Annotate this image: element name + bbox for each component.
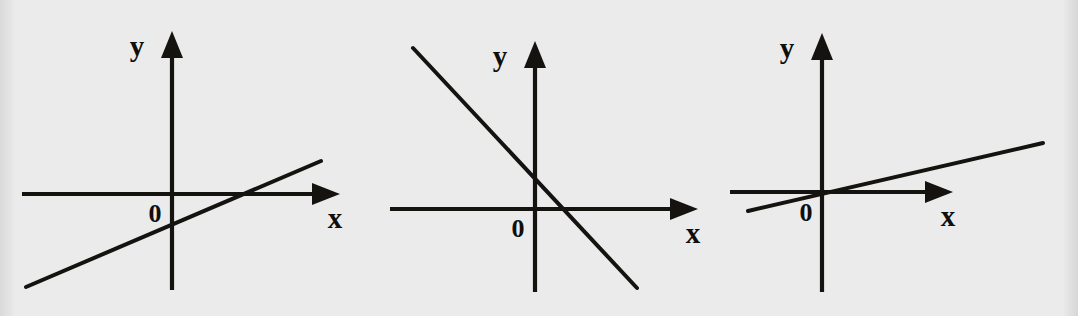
x-axis-label-2: x — [686, 217, 701, 249]
figure-panel: y x 0 y x 0 — [0, 0, 1078, 316]
y-axis-label-1: y — [130, 30, 145, 62]
graph-figure-1: y x 0 — [0, 0, 360, 316]
y-axis-arrow-icon — [811, 33, 833, 60]
y-axis-label-2: y — [493, 40, 508, 72]
x-axis-label-1: x — [328, 202, 343, 234]
y-axis-label-3: y — [780, 32, 795, 64]
coordinate-plane-3: y x 0 — [718, 0, 1078, 316]
graph-figure-3: y x 0 — [718, 0, 1078, 316]
coordinate-plane-1: y x 0 — [0, 0, 360, 316]
y-axis-arrow-icon — [161, 31, 183, 58]
y-axis-arrow-icon — [524, 41, 546, 68]
coordinate-plane-2: y x 0 — [360, 0, 718, 316]
plotted-line-2 — [413, 48, 637, 288]
x-axis-label-3: x — [941, 200, 956, 232]
origin-label-1: 0 — [149, 199, 162, 228]
plotted-line-3 — [748, 143, 1043, 211]
graph-figure-2: y x 0 — [360, 0, 718, 316]
origin-label-3: 0 — [800, 198, 813, 227]
origin-label-2: 0 — [512, 214, 525, 243]
